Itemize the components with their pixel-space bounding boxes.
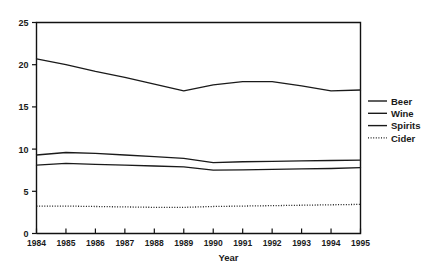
legend-label-wine: Wine [391, 108, 414, 119]
x-tick-label: 1995 [351, 238, 370, 248]
y-tick-label: 20 [18, 60, 28, 70]
x-tick-label: 1993 [292, 238, 311, 248]
x-axis-title: Year [218, 252, 238, 263]
legend-label-beer: Beer [391, 96, 412, 107]
x-tick-label: 1987 [115, 238, 134, 248]
y-tick-label: 10 [18, 145, 28, 155]
chart-canvas: 0510152025198419851986198719881989199019… [0, 0, 430, 274]
series-line-spirits [37, 163, 361, 170]
x-tick-label: 1992 [263, 238, 282, 248]
x-tick-label: 1991 [233, 238, 252, 248]
series-line-cider [37, 204, 361, 207]
y-tick-label: 5 [23, 187, 28, 197]
x-tick-label: 1994 [322, 238, 341, 248]
legend-label-cider: Cider [391, 133, 416, 144]
plot-frame [37, 23, 361, 234]
series-line-beer [37, 59, 361, 91]
y-tick-label: 15 [18, 102, 28, 112]
y-tick-label: 25 [18, 18, 28, 28]
legend-label-spirits: Spirits [391, 120, 421, 131]
x-tick-label: 1986 [86, 238, 105, 248]
series-line-wine [37, 152, 361, 162]
x-tick-label: 1990 [204, 238, 223, 248]
x-tick-label: 1988 [145, 238, 164, 248]
x-tick-label: 1985 [56, 238, 75, 248]
x-tick-label: 1989 [174, 238, 193, 248]
x-tick-label: 1984 [27, 238, 46, 248]
line-chart: 0510152025198419851986198719881989199019… [0, 0, 430, 274]
